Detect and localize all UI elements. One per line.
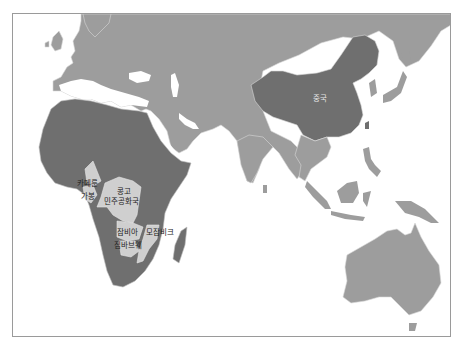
label-cameroon: 카메룬 [77, 179, 98, 188]
label-drc-line1: 콩고 [117, 187, 131, 196]
java [331, 211, 365, 221]
map-frame: 중국 카메룬 가봉 콩고 민주공화국 잠비아 모잠비크 짐바브웨 [12, 13, 451, 337]
tasmania [409, 323, 417, 331]
label-gabon: 가봉 [81, 192, 95, 201]
sri-lanka [263, 185, 267, 193]
borneo [337, 181, 359, 203]
philippines [363, 147, 381, 177]
korea [369, 79, 377, 97]
label-drc-line2: 민주공화국 [104, 197, 139, 206]
new-guinea [395, 201, 439, 223]
label-zimbabwe: 짐바브웨 [114, 241, 142, 250]
australia-landmass [343, 223, 441, 315]
madagascar [173, 227, 187, 263]
southeast-asia-landmass [295, 135, 331, 181]
label-china: 중국 [313, 94, 327, 103]
japan [383, 49, 411, 103]
world-map [13, 14, 451, 337]
taiwan [365, 121, 369, 129]
label-mozambique: 모잠비크 [146, 228, 174, 237]
uk-landmass [45, 31, 63, 51]
label-zambia: 잠비아 [117, 228, 138, 237]
sulawesi [363, 191, 371, 207]
sumatra [305, 181, 331, 209]
india-landmass [237, 135, 273, 183]
